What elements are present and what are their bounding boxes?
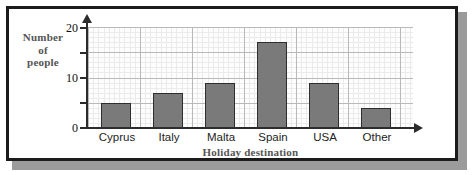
y-tick-15 xyxy=(80,52,87,54)
chart-plot-area: Number of people 0 10 20 Cypr xyxy=(0,0,474,175)
y-tick-5 xyxy=(80,102,87,104)
figure: Number of people 0 10 20 Cypr xyxy=(0,0,474,175)
y-axis-title: Number of people xyxy=(12,31,74,69)
x-axis-title: Holiday destination xyxy=(88,146,413,158)
bar-other xyxy=(361,108,391,128)
y-axis-title-line-2: of xyxy=(12,44,74,57)
y-axis-title-line-3: people xyxy=(12,56,74,69)
bar-malta xyxy=(205,83,235,128)
bar-spain xyxy=(257,42,287,128)
bar-italy xyxy=(153,93,183,128)
y-tick-10 xyxy=(80,77,87,79)
y-tick-label-0: 0 xyxy=(52,121,78,136)
bar-cyprus xyxy=(101,103,131,128)
y-tick-label-10: 10 xyxy=(52,71,78,86)
y-tick-label-20: 20 xyxy=(52,21,78,36)
y-axis-arrow-icon xyxy=(82,14,92,23)
y-tick-20 xyxy=(80,27,87,29)
bar-usa xyxy=(309,83,339,128)
y-tick-0 xyxy=(80,127,87,129)
bar-series xyxy=(88,27,413,128)
x-tick-label-other: Other xyxy=(336,131,418,143)
